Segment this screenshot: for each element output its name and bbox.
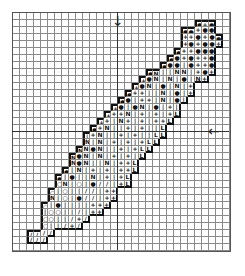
empty-cell [160, 216, 167, 223]
empty-cell [62, 69, 69, 76]
empty-cell [195, 13, 202, 20]
empty-cell [146, 55, 153, 62]
stitch-cell: | [146, 132, 153, 139]
empty-cell [160, 27, 167, 34]
empty-cell [202, 13, 209, 20]
empty-cell [34, 41, 41, 48]
empty-cell [195, 97, 202, 104]
empty-cell [34, 48, 41, 55]
empty-cell [83, 104, 90, 111]
stitch-cell: + [90, 167, 97, 174]
empty-cell [27, 146, 34, 153]
empty-cell [34, 195, 41, 202]
empty-cell [146, 160, 153, 167]
stitch-cell: N [153, 76, 160, 83]
empty-cell [27, 76, 34, 83]
empty-cell [174, 139, 181, 146]
stitch-cell: | [69, 188, 76, 195]
empty-cell [188, 237, 195, 244]
stitch-cell: + [104, 195, 111, 202]
stitch-cell: N [48, 195, 55, 202]
empty-cell [167, 202, 174, 209]
empty-cell [167, 195, 174, 202]
stitch-cell: + [104, 188, 111, 195]
empty-cell [48, 111, 55, 118]
stitch-cell: ● [209, 41, 216, 48]
empty-cell [167, 27, 174, 34]
empty-cell [223, 83, 230, 90]
empty-cell [160, 13, 167, 20]
empty-cell [160, 167, 167, 174]
empty-cell [167, 41, 174, 48]
empty-cell [118, 237, 125, 244]
empty-cell [97, 27, 104, 34]
empty-cell [97, 76, 104, 83]
empty-cell [41, 34, 48, 41]
empty-cell [34, 139, 41, 146]
empty-cell [153, 195, 160, 202]
empty-cell [202, 244, 209, 251]
stitch-cell: | [62, 216, 69, 223]
stitch-cell: + [97, 118, 104, 125]
empty-cell [20, 27, 27, 34]
empty-cell [188, 160, 195, 167]
empty-cell [20, 13, 27, 20]
stitch-cell: ● [55, 202, 62, 209]
empty-cell [13, 153, 20, 160]
stitch-cell: N [104, 160, 111, 167]
empty-cell [69, 13, 76, 20]
empty-cell [20, 104, 27, 111]
empty-cell [20, 34, 27, 41]
stitch-cell: / [34, 230, 41, 237]
empty-cell [132, 202, 139, 209]
empty-cell [223, 160, 230, 167]
stitch-cell: + [195, 55, 202, 62]
stitch-cell: | [41, 209, 48, 216]
stitch-cell: | [181, 83, 188, 90]
empty-cell [97, 13, 104, 20]
stitch-cell: + [90, 209, 97, 216]
empty-cell [27, 202, 34, 209]
empty-cell [20, 230, 27, 237]
empty-cell [139, 13, 146, 20]
empty-cell [174, 223, 181, 230]
empty-cell [167, 13, 174, 20]
empty-cell [69, 118, 76, 125]
empty-cell [69, 69, 76, 76]
empty-cell [216, 104, 223, 111]
empty-cell [202, 230, 209, 237]
empty-cell [62, 118, 69, 125]
stitch-cell: | [132, 139, 139, 146]
empty-cell [223, 97, 230, 104]
empty-cell [34, 104, 41, 111]
stitch-cell: | [132, 153, 139, 160]
stitch-cell: N [97, 146, 104, 153]
empty-cell [48, 90, 55, 97]
empty-cell [188, 97, 195, 104]
empty-cell [76, 237, 83, 244]
empty-cell [69, 48, 76, 55]
empty-cell [216, 97, 223, 104]
empty-cell [69, 55, 76, 62]
empty-cell [20, 139, 27, 146]
empty-cell [139, 55, 146, 62]
empty-cell [118, 48, 125, 55]
stitch-cell: ● [181, 27, 188, 34]
empty-cell [27, 118, 34, 125]
stitch-cell: / [104, 181, 111, 188]
stitch-cell: | [97, 160, 104, 167]
empty-cell [132, 76, 139, 83]
empty-cell [118, 90, 125, 97]
empty-cell [216, 13, 223, 20]
empty-cell [153, 167, 160, 174]
empty-cell [174, 41, 181, 48]
empty-cell [55, 167, 62, 174]
empty-cell [125, 34, 132, 41]
empty-cell [202, 174, 209, 181]
empty-cell [132, 20, 139, 27]
empty-cell [202, 104, 209, 111]
empty-cell [55, 97, 62, 104]
empty-cell [41, 146, 48, 153]
empty-cell [216, 209, 223, 216]
empty-cell [195, 230, 202, 237]
